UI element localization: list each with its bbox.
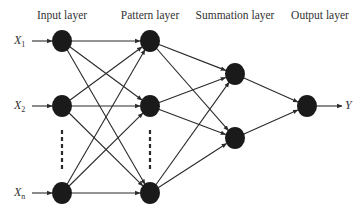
layer-2-node [225, 127, 245, 149]
neural-network-diagram: Input layer Pattern layer Summation laye… [0, 0, 364, 216]
connection-edge [235, 74, 298, 102]
connection-edge [62, 113, 143, 193]
network-graph [0, 0, 364, 216]
connection-edge [150, 41, 228, 130]
connection-edge [150, 78, 226, 106]
connection-edge [150, 82, 229, 193]
connection-edge [62, 41, 142, 100]
layer-0-node [52, 30, 72, 52]
layer-0-node [52, 95, 72, 117]
layer-1-node [140, 182, 160, 204]
connection-edge [62, 106, 143, 186]
layer-2-node [225, 63, 245, 85]
connection-edge [150, 106, 226, 134]
layer-1-node [140, 30, 160, 52]
connection-edge [150, 41, 226, 70]
connection-edge [62, 41, 145, 184]
connection-edge [150, 143, 227, 193]
layer-1-node [140, 95, 160, 117]
layer-0-node [52, 182, 72, 204]
layer-3-node [297, 95, 317, 117]
connection-edge [235, 110, 298, 138]
